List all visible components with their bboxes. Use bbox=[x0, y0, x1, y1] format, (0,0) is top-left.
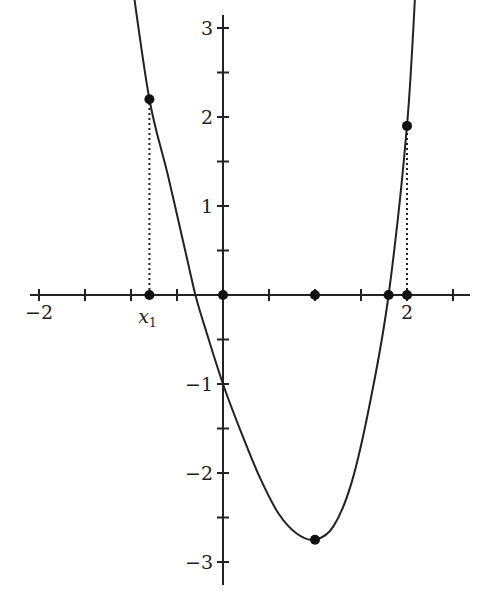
y-tick-label: −1 bbox=[185, 373, 213, 395]
x-tick-label: −2 bbox=[25, 301, 53, 323]
marked-point bbox=[144, 290, 154, 300]
marked-point bbox=[384, 290, 394, 300]
y-tick-label: 3 bbox=[201, 17, 213, 39]
marked-point bbox=[402, 121, 412, 131]
function-graph: −22321−1−2−3x1 bbox=[0, 0, 485, 609]
function-curve bbox=[131, 0, 416, 540]
axes bbox=[30, 15, 470, 585]
marked-point bbox=[310, 535, 320, 545]
y-tick-label: 2 bbox=[201, 106, 213, 128]
marked-point bbox=[310, 290, 320, 300]
marked-point bbox=[144, 94, 154, 104]
y-tick-label: 1 bbox=[201, 195, 213, 217]
x-tick-label: 2 bbox=[401, 301, 413, 323]
marked-point bbox=[218, 290, 228, 300]
y-tick-label: −2 bbox=[185, 462, 213, 484]
marked-point bbox=[402, 290, 412, 300]
x1-label: x1 bbox=[138, 305, 156, 330]
y-tick-label: −3 bbox=[185, 551, 213, 573]
